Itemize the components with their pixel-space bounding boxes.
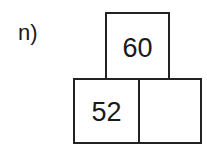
pyramid-bottom-right-cell[interactable] bbox=[138, 78, 202, 144]
pyramid-bottom-left-cell: 52 bbox=[73, 78, 140, 144]
problem-label: n) bbox=[18, 20, 38, 46]
pyramid-top-cell: 60 bbox=[105, 12, 170, 80]
